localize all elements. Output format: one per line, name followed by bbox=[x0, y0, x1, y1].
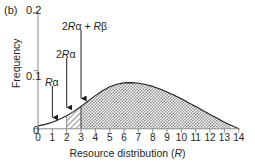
ann2-var2: R bbox=[93, 20, 101, 32]
x-axis-title-var: R bbox=[174, 147, 182, 159]
annotation-label-2ralpha-rbeta: 2Rα + Rβ bbox=[62, 20, 107, 32]
x-axis-title: Resource distribution (R) bbox=[0, 148, 255, 159]
panel-label: (b) bbox=[4, 5, 17, 16]
x-tick-label-7: 7 bbox=[131, 132, 145, 143]
x-tick-label-2: 2 bbox=[60, 132, 74, 143]
x-axis-title-suffix: ) bbox=[182, 147, 186, 159]
x-axis-title-prefix: Resource distribution ( bbox=[69, 147, 174, 159]
figure-panel-b: (b) 0.2 0.1 0 Frequency Resource distrib… bbox=[0, 0, 255, 163]
x-tick-label-0: 0 bbox=[31, 132, 45, 143]
x-tick-label-10: 10 bbox=[174, 132, 188, 143]
y-tick-label-top: 0.2 bbox=[26, 5, 41, 16]
annotation-label-ralpha: Rα bbox=[45, 76, 59, 88]
x-tick-label-14: 14 bbox=[232, 132, 246, 143]
y-tick-label-mid: 0.1 bbox=[26, 71, 41, 82]
ann1-suffix: α bbox=[69, 48, 75, 60]
x-tick-label-13: 13 bbox=[217, 132, 231, 143]
x-tick-label-11: 11 bbox=[189, 132, 203, 143]
ann2-suffix2: β bbox=[101, 20, 107, 32]
x-tick-label-6: 6 bbox=[117, 132, 131, 143]
annotation-arrows bbox=[52, 30, 81, 118]
annotation-label-2ralpha: 2Rα bbox=[56, 48, 76, 60]
x-tick-label-1: 1 bbox=[45, 132, 59, 143]
x-tick-label-5: 5 bbox=[103, 132, 117, 143]
y-axis-title: Frequency bbox=[11, 33, 22, 93]
x-tick-label-3: 3 bbox=[74, 132, 88, 143]
ann2-suffix: α + bbox=[75, 20, 93, 32]
ann0-suffix: α bbox=[53, 76, 59, 88]
x-tick-label-4: 4 bbox=[88, 132, 102, 143]
ann0-var: R bbox=[45, 76, 53, 88]
x-tick-label-8: 8 bbox=[146, 132, 160, 143]
x-tick-label-12: 12 bbox=[203, 132, 217, 143]
x-tick-label-9: 9 bbox=[160, 132, 174, 143]
